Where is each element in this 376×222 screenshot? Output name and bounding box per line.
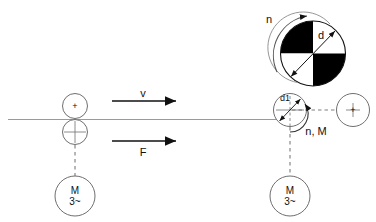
roller-torque-label: n, M bbox=[305, 125, 326, 137]
idler-center-mark: + bbox=[350, 105, 355, 115]
force-label: F bbox=[140, 146, 147, 158]
velocity-label: v bbox=[140, 87, 146, 99]
right-motor-label-phase: 3~ bbox=[284, 196, 296, 207]
roller-diameter-label: d1 bbox=[280, 93, 290, 103]
left-upper-roller-center-mark: + bbox=[72, 101, 77, 111]
right-motor-label-m: M bbox=[286, 185, 294, 196]
left-motor-label-m: M bbox=[71, 185, 79, 196]
wheel-diameter-label: d bbox=[318, 29, 324, 41]
technical-diagram: + v F n d d1 n, M + M 3~ M 3~ bbox=[0, 0, 376, 222]
diagram-canvas: + v F n d d1 n, M + M 3~ M 3~ bbox=[0, 0, 376, 222]
left-motor-label-phase: 3~ bbox=[69, 196, 81, 207]
wheel-rotation-label: n bbox=[266, 13, 272, 25]
